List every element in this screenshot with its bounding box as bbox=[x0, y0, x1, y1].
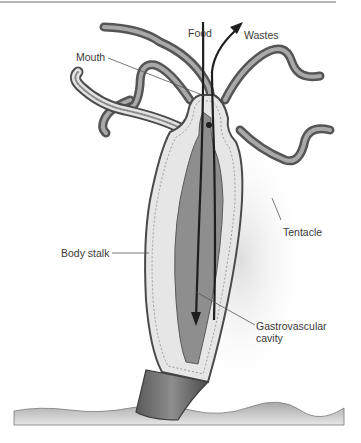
label-gastrovascular-line2: cavity bbox=[256, 332, 327, 344]
label-mouth: Mouth bbox=[76, 51, 105, 63]
label-food: Food bbox=[188, 27, 212, 39]
label-body-stalk: Body stalk bbox=[61, 247, 109, 259]
label-tentacle: Tentacle bbox=[283, 226, 322, 238]
label-gastrovascular: Gastrovascular cavity bbox=[256, 320, 327, 344]
wastes-arrowhead-icon bbox=[230, 22, 243, 34]
label-gastrovascular-line1: Gastrovascular bbox=[256, 320, 327, 332]
mouth-dot bbox=[206, 122, 212, 128]
hydra-illustration bbox=[0, 0, 361, 443]
label-wastes: Wastes bbox=[244, 29, 279, 41]
